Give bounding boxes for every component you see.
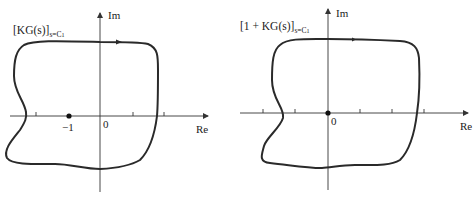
nyquist-diagrams: −1 0 Re Im [KG(s)]s=C1 0 Re Im [0,0,474,200]
left-nyquist-contour [6,41,158,169]
left-plot: −1 0 Re Im [KG(s)]s=C1 [6,9,208,192]
left-critical-point [66,113,71,118]
right-im-label: Im [336,7,349,19]
left-direction-arrow-icon [116,40,122,45]
left-re-label: Re [196,123,208,135]
left-point-label: −1 [62,121,74,133]
left-origin-label: 0 [103,118,109,130]
left-im-label: Im [108,9,121,21]
right-direction-arrow-icon [352,38,356,42]
right-critical-point [325,110,330,115]
right-re-label: Re [460,120,472,132]
right-origin-label: 0 [331,115,337,127]
right-plot: 0 Re Im [1 + KG(s)]s=C1 [240,7,472,190]
right-nyquist-contour [262,39,420,168]
right-plot-title: [1 + KG(s)]s=C1 [240,20,310,35]
right-ticks [263,109,424,113]
left-plot-title: [KG(s)]s=C1 [13,24,65,39]
